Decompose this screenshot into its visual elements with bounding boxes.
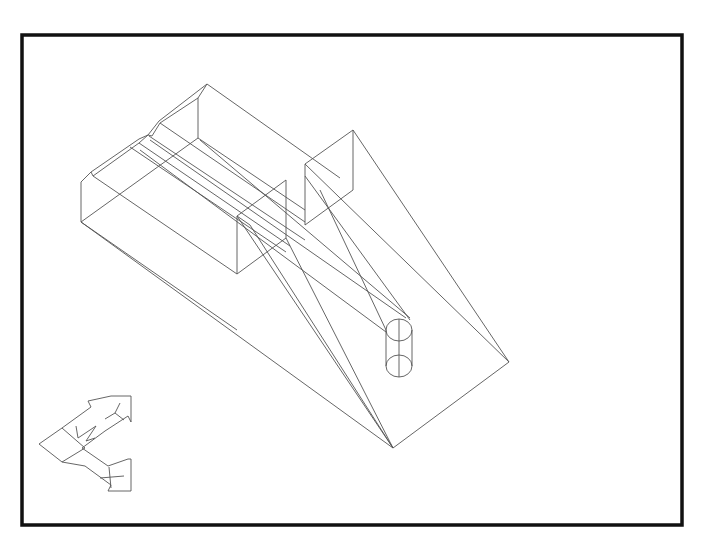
upright-box-b xyxy=(305,130,353,225)
stepped-block xyxy=(81,84,410,332)
cylinder xyxy=(386,319,412,377)
axis-x-label-icon xyxy=(100,467,124,488)
base-plate xyxy=(81,130,509,448)
wireframe-drawing xyxy=(0,0,703,547)
cad-viewport[interactable] xyxy=(0,0,703,547)
w-marker-icon xyxy=(76,426,96,441)
ucs-icon xyxy=(39,396,131,491)
axis-y-label-icon xyxy=(105,403,124,420)
